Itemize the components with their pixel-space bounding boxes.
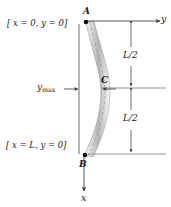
label-dimension-upper: L/2 <box>123 51 138 60</box>
node-dot-a <box>84 20 89 25</box>
label-axis-y: y <box>161 14 166 24</box>
boundary-condition-b: [ x = L, y = 0] <box>6 141 66 150</box>
figure-container: [ x = 0, y = 0] [ x = L, y = 0] A B C y … <box>0 0 171 207</box>
boundary-condition-a: [ x = 0, y = 0] <box>7 19 67 28</box>
label-dimension-lower: L/2 <box>123 114 138 123</box>
label-point-c: C <box>101 76 108 85</box>
label-point-a: A <box>83 7 90 16</box>
label-ymax-subscript: max <box>42 86 55 94</box>
label-axis-x: x <box>81 193 86 203</box>
label-ymax: ymax <box>37 83 55 92</box>
label-point-b: B <box>79 160 87 169</box>
diagram-canvas <box>0 0 171 207</box>
node-dot-b <box>83 153 88 158</box>
